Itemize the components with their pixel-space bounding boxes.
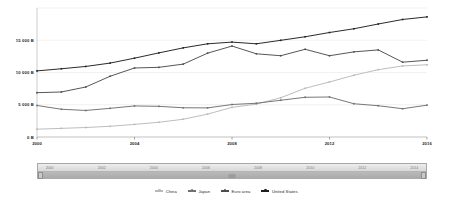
svg-text:2008: 2008 <box>227 141 237 146</box>
legend-item-japan[interactable]: Japan <box>188 189 210 194</box>
line-chart-svg: 0 B5 000 B10 000 B15 000 B 2000200420082… <box>0 0 453 160</box>
slider-year-2004: 2004 <box>150 166 158 170</box>
legend-item-united-states[interactable]: United States <box>261 189 297 194</box>
legend-marker-icon <box>155 190 163 191</box>
legend-marker-icon <box>188 190 196 191</box>
series-china <box>36 64 428 130</box>
slider-year-2006: 2006 <box>202 166 210 170</box>
svg-text:2016: 2016 <box>422 141 432 146</box>
slider-handle-left[interactable] <box>38 172 43 179</box>
svg-text:2000: 2000 <box>32 141 42 146</box>
svg-text:0 B: 0 B <box>27 135 34 140</box>
slider-year-2012: 2012 <box>358 166 366 170</box>
time-range-slider[interactable]: 20002002200420062008201020122014 <box>37 163 427 179</box>
slider-grip-icon[interactable] <box>229 174 236 178</box>
slider-year-2014: 2014 <box>410 166 418 170</box>
series-euro-area <box>36 45 428 93</box>
series-united-states <box>36 16 428 72</box>
svg-text:10 000 B: 10 000 B <box>16 70 34 75</box>
slider-thumb-bar[interactable] <box>38 172 426 179</box>
series-japan <box>36 96 428 111</box>
chart-legend: ChinaJapanEuro areaUnited States <box>0 184 453 198</box>
x-axis-tick-marks <box>37 137 427 140</box>
gridlines <box>37 8 427 137</box>
svg-text:2004: 2004 <box>130 141 140 146</box>
svg-text:15 000 B: 15 000 B <box>16 38 34 43</box>
chart-page: 0 B5 000 B10 000 B15 000 B 2000200420082… <box>0 0 453 208</box>
slider-year-2008: 2008 <box>254 166 262 170</box>
slider-year-track[interactable]: 20002002200420062008201020122014 <box>38 164 426 172</box>
legend-item-china[interactable]: China <box>155 189 177 194</box>
svg-text:2012: 2012 <box>325 141 335 146</box>
slider-handle-right[interactable] <box>421 172 426 179</box>
slider-year-2000: 2000 <box>46 166 54 170</box>
y-axis-tick-labels: 0 B5 000 B10 000 B15 000 B <box>16 38 34 140</box>
chart-plot-area: 0 B5 000 B10 000 B15 000 B 2000200420082… <box>0 0 453 160</box>
legend-label: Euro area <box>232 189 251 194</box>
slider-year-2010: 2010 <box>306 166 314 170</box>
data-series-group <box>36 16 428 130</box>
svg-text:5 000 B: 5 000 B <box>18 102 34 107</box>
legend-label: Japan <box>198 189 210 194</box>
slider-year-2002: 2002 <box>98 166 106 170</box>
legend-label: China <box>166 189 177 194</box>
legend-label: United States <box>272 189 298 194</box>
legend-marker-icon <box>221 190 229 191</box>
x-axis-tick-labels: 20002004200820122016 <box>32 141 432 146</box>
legend-marker-icon <box>261 190 269 191</box>
legend-item-euro-area[interactable]: Euro area <box>221 189 250 194</box>
